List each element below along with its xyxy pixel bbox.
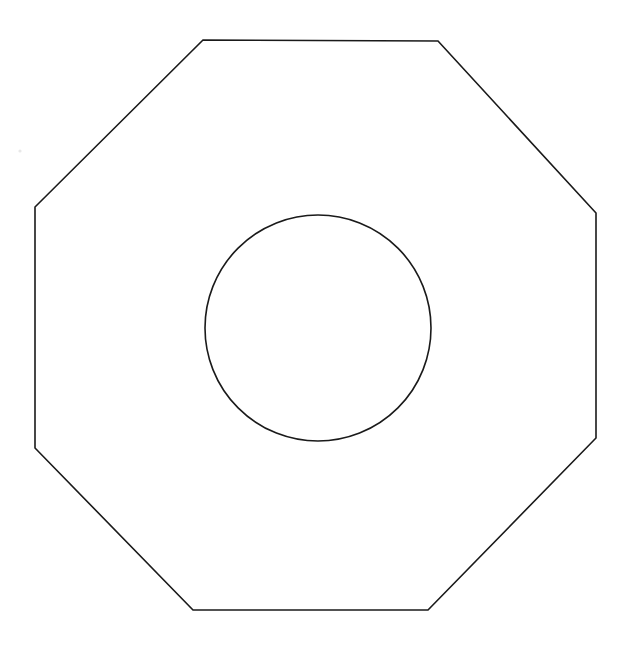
figure-canvas (0, 0, 624, 645)
stray-speck-mark (18, 149, 21, 152)
line-drawing-svg (0, 0, 624, 645)
background-rect (0, 0, 624, 645)
